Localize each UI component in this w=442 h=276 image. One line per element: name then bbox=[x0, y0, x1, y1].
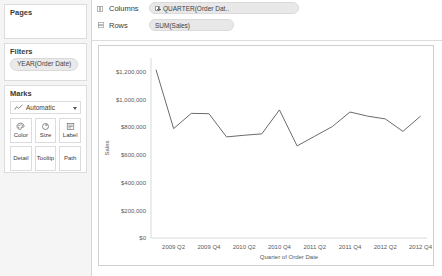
size-circle-icon bbox=[41, 122, 50, 131]
x-axis-tick-labels: 2009 Q22009 Q42010 Q22010 Q42011 Q22011 … bbox=[162, 244, 433, 250]
y-tick-label: $800,000 bbox=[121, 124, 147, 130]
expand-plus-icon[interactable] bbox=[155, 6, 160, 11]
marks-card: Marks Automatic bbox=[4, 85, 87, 173]
mark-type-value: Automatic bbox=[26, 104, 55, 111]
tableau-worksheet: Pages Filters YEAR(Order Date) Marks Aut… bbox=[0, 0, 442, 276]
x-tick-label: 2009 Q2 bbox=[162, 244, 186, 250]
y-tick-label: $1,200,000 bbox=[116, 69, 147, 75]
x-tick-label: 2012 Q4 bbox=[409, 244, 433, 250]
filter-pill-year-order-date[interactable]: YEAR(Order Date) bbox=[10, 58, 78, 71]
shelf-divider bbox=[92, 40, 442, 41]
worksheet-main: Columns QUARTER(Order Dat.. Rows bbox=[92, 0, 442, 276]
marks-color-label: Color bbox=[14, 132, 28, 139]
marks-color-button[interactable]: Color bbox=[10, 118, 32, 143]
x-tick-label: 2012 Q2 bbox=[374, 244, 398, 250]
columns-pill-quarter-order-date[interactable]: QUARTER(Order Dat.. bbox=[149, 2, 299, 14]
rows-pill-label: SUM(Sales) bbox=[155, 22, 190, 29]
chart-view[interactable]: $0$200,000$400,000$600,000$800,000$1,000… bbox=[98, 45, 434, 266]
y-tick-label: $1,000,000 bbox=[116, 97, 147, 103]
rows-pill-sum-sales[interactable]: SUM(Sales) bbox=[149, 19, 234, 31]
rows-shelf-icon bbox=[97, 22, 105, 30]
marks-tooltip-button[interactable]: Tooltip bbox=[35, 146, 57, 171]
line-chart-svg: $0$200,000$400,000$600,000$800,000$1,000… bbox=[99, 46, 435, 267]
x-tick-label: 2010 Q2 bbox=[233, 244, 257, 250]
marks-path-button[interactable]: Path bbox=[59, 146, 81, 171]
label-text-icon bbox=[66, 122, 75, 131]
x-tick-label: 2010 Q4 bbox=[268, 244, 292, 250]
mark-type-dropdown[interactable]: Automatic bbox=[10, 101, 81, 114]
marks-size-label: Size bbox=[40, 132, 52, 139]
columns-shelf[interactable]: Columns QUARTER(Order Dat.. bbox=[92, 0, 442, 17]
x-tick-label: 2011 Q2 bbox=[303, 244, 326, 250]
columns-shelf-icon bbox=[97, 5, 105, 13]
marks-size-button[interactable]: Size bbox=[35, 118, 57, 143]
y-tick-label: $400,000 bbox=[121, 180, 147, 186]
left-sidebar: Pages Filters YEAR(Order Date) Marks Aut… bbox=[0, 0, 92, 276]
y-axis-tick-labels: $0$200,000$400,000$600,000$800,000$1,000… bbox=[116, 69, 147, 241]
filters-card[interactable]: Filters YEAR(Order Date) bbox=[4, 43, 87, 81]
filters-card-title: Filters bbox=[5, 44, 86, 58]
rows-shelf[interactable]: Rows SUM(Sales) bbox=[92, 17, 442, 34]
y-tick-label: $0 bbox=[139, 235, 146, 241]
columns-pill-label: QUARTER(Order Dat.. bbox=[163, 5, 229, 12]
x-tick-label: 2011 Q4 bbox=[339, 244, 362, 250]
marks-detail-label: Detail bbox=[13, 155, 28, 162]
marks-detail-button[interactable]: Detail bbox=[10, 146, 32, 171]
mark-buttons-grid: Color Size bbox=[5, 114, 86, 171]
marks-path-label: Path bbox=[64, 155, 76, 162]
marks-label-button[interactable]: Label bbox=[59, 118, 81, 143]
rows-shelf-label: Rows bbox=[109, 21, 149, 30]
columns-shelf-label: Columns bbox=[109, 4, 149, 13]
color-palette-icon bbox=[16, 122, 25, 131]
y-axis-title: Sales bbox=[104, 140, 110, 155]
shelves-region: Columns QUARTER(Order Dat.. Rows bbox=[92, 0, 442, 40]
pages-card-title: Pages bbox=[5, 5, 86, 19]
line-mark-icon bbox=[14, 104, 23, 111]
pages-card[interactable]: Pages bbox=[4, 4, 87, 39]
x-tick-label: 2009 Q4 bbox=[197, 244, 221, 250]
marks-card-title: Marks bbox=[5, 86, 86, 100]
marks-tooltip-label: Tooltip bbox=[37, 155, 54, 162]
sales-line-series bbox=[156, 70, 421, 146]
y-tick-label: $600,000 bbox=[121, 152, 147, 158]
y-tick-label: $200,000 bbox=[121, 208, 147, 214]
columns-shelf-slot[interactable]: QUARTER(Order Dat.. bbox=[149, 2, 442, 15]
chevron-down-icon[interactable] bbox=[73, 107, 77, 110]
marks-label-label: Label bbox=[63, 132, 78, 139]
rows-shelf-slot[interactable]: SUM(Sales) bbox=[149, 19, 442, 32]
x-axis-title: Quarter of Order Date bbox=[260, 254, 319, 260]
